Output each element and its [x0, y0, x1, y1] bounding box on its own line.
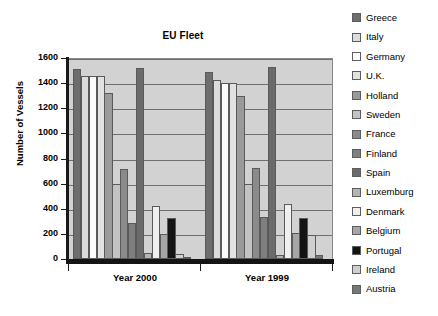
chart-container: EU Fleet Number of Vessels 1600140012001… [0, 0, 340, 316]
legend-item-label: Luxemburg [366, 187, 414, 197]
legend-swatch-icon [352, 130, 361, 139]
legend-swatch-icon [352, 71, 361, 80]
y-axis-tick-label: 1200 [26, 102, 58, 112]
y-axis-tick-labels: 16001400120010008006004002000 [24, 0, 58, 316]
chart-page: EU Fleet Number of Vessels 1600140012001… [0, 0, 438, 316]
y-axis-tick-label: 1600 [26, 52, 58, 62]
legend-item-label: Portugal [366, 246, 401, 256]
y-axis-tick-label: 400 [26, 203, 58, 213]
legend-swatch-icon [352, 207, 361, 216]
legend-item-label: Austria [366, 284, 396, 294]
legend-item-greece[interactable]: Greece [352, 8, 438, 27]
legend-item-portugal[interactable]: Portugal [352, 241, 438, 260]
legend-item-label: France [366, 129, 396, 139]
y-axis-tick-label: 800 [26, 153, 58, 163]
legend-swatch-icon [352, 33, 361, 42]
y-axis-tick [61, 209, 66, 210]
legend-swatch-icon [352, 285, 361, 294]
legend-item-holland[interactable]: Holland [352, 86, 438, 105]
y-axis-tick [61, 108, 66, 109]
y-axis-tick [61, 184, 66, 185]
y-axis-tick-label: 1000 [26, 127, 58, 137]
legend-item-label: Belgium [366, 226, 400, 236]
legend-item-sweden[interactable]: Sweden [352, 105, 438, 124]
legend-item-label: Denmark [366, 207, 405, 217]
legend-item-uk[interactable]: U.K. [352, 66, 438, 85]
y-axis-line [66, 57, 69, 260]
legend-item-ireland[interactable]: Ireland [352, 260, 438, 279]
legend-item-france[interactable]: France [352, 124, 438, 143]
legend-swatch-icon [352, 265, 361, 274]
x-axis-tick [332, 264, 333, 271]
y-axis-tick-label: 600 [26, 178, 58, 188]
legend-swatch-icon [352, 149, 361, 158]
legend-item-label: Italy [366, 32, 383, 42]
y-axis-tick [61, 58, 66, 59]
legend-swatch-icon [352, 168, 361, 177]
legend-swatch-icon [352, 52, 361, 61]
legend-item-germany[interactable]: Germany [352, 47, 438, 66]
x-axis-group-label: Year 1999 [222, 272, 312, 283]
plot-inner [69, 59, 332, 259]
legend-swatch-icon [352, 226, 361, 235]
legend-item-label: Holland [366, 91, 398, 101]
x-axis-group-label: Year 2000 [90, 272, 180, 283]
y-axis-tick-label: 200 [26, 228, 58, 238]
y-axis-tick [61, 133, 66, 134]
legend-item-label: Spain [366, 168, 390, 178]
legend-item-label: U.K. [366, 71, 384, 81]
legend-item-label: Finland [366, 149, 397, 159]
y-axis-tick [61, 159, 66, 160]
legend-item-label: Ireland [366, 265, 395, 275]
legend-item-luxemburg[interactable]: Luxemburg [352, 183, 438, 202]
legend-swatch-icon [352, 110, 361, 119]
plot-area [69, 58, 333, 259]
legend-swatch-icon [352, 246, 361, 255]
y-axis-tick [61, 234, 66, 235]
legend-item-label: Sweden [366, 110, 400, 120]
legend-swatch-icon [352, 188, 361, 197]
legend-swatch-icon [352, 13, 361, 22]
legend-item-denmark[interactable]: Denmark [352, 202, 438, 221]
gridline [69, 84, 332, 85]
legend-item-finland[interactable]: Finland [352, 144, 438, 163]
legend-item-label: Greece [366, 13, 397, 23]
legend-item-italy[interactable]: Italy [352, 27, 438, 46]
bar-spain-year-2000 [136, 68, 144, 259]
legend-swatch-icon [352, 91, 361, 100]
bar-spain-year-1999 [268, 67, 276, 259]
gridline [69, 59, 332, 60]
legend-item-austria[interactable]: Austria [352, 279, 438, 298]
x-axis-tick [68, 264, 69, 271]
x-axis-tick [200, 264, 201, 271]
bar-portugal-year-2000 [167, 218, 175, 259]
y-axis-tick-label: 0 [26, 253, 58, 263]
y-axis-label: Number of Vessels [14, 69, 25, 179]
y-axis-tick [61, 259, 66, 260]
y-axis-tick [61, 83, 66, 84]
chart-legend: GreeceItalyGermanyU.K.HollandSwedenFranc… [352, 8, 438, 299]
y-axis-tick-label: 1400 [26, 77, 58, 87]
legend-item-label: Germany [366, 52, 405, 62]
chart-title: EU Fleet [118, 30, 248, 41]
legend-item-belgium[interactable]: Belgium [352, 221, 438, 240]
legend-item-spain[interactable]: Spain [352, 163, 438, 182]
